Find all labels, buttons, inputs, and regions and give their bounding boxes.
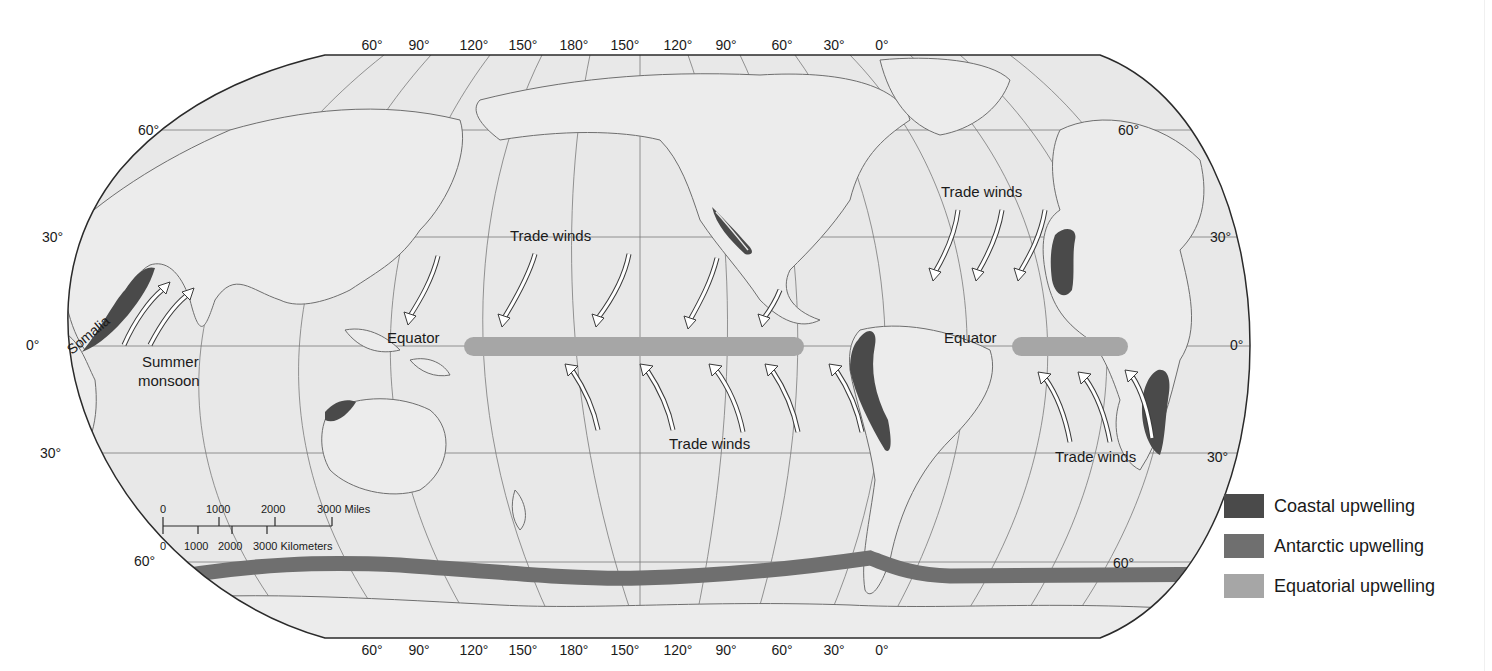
svg-text:3000 Kilometers: 3000 Kilometers	[253, 540, 333, 552]
legend-label: Equatorial upwelling	[1274, 576, 1435, 597]
svg-text:0°: 0°	[1230, 337, 1243, 353]
svg-text:120°: 120°	[460, 37, 489, 53]
svg-text:0°: 0°	[875, 37, 888, 53]
svg-text:60°: 60°	[771, 37, 792, 53]
svg-text:2000: 2000	[261, 503, 285, 515]
svg-text:180°: 180°	[560, 642, 589, 658]
svg-text:150°: 150°	[509, 642, 538, 658]
svg-text:0°: 0°	[26, 337, 39, 353]
svg-text:0°: 0°	[875, 642, 888, 658]
page-edge-divider	[1484, 0, 1485, 671]
svg-text:60°: 60°	[361, 642, 382, 658]
label-equator: Equator	[387, 329, 440, 346]
swatch-equatorial-upwelling	[1224, 574, 1264, 598]
svg-text:1000: 1000	[184, 540, 208, 552]
svg-text:0: 0	[160, 503, 166, 515]
legend: Coastal upwelling Antarctic upwelling Eq…	[1224, 486, 1435, 606]
svg-text:60°: 60°	[1113, 555, 1134, 571]
svg-text:3000 Miles: 3000 Miles	[317, 503, 371, 515]
swatch-antarctic-upwelling	[1224, 534, 1264, 558]
equatorial-upwelling-pacific	[464, 337, 804, 356]
legend-label: Coastal upwelling	[1274, 496, 1415, 517]
legend-label: Antarctic upwelling	[1274, 536, 1424, 557]
label-summer-monsoon: Summer	[142, 353, 199, 370]
label-summer-monsoon: monsoon	[138, 372, 200, 389]
svg-text:0: 0	[160, 540, 166, 552]
longitude-labels-bottom: 60° 90° 120° 150° 180° 150° 120° 90° 60°…	[361, 642, 888, 658]
svg-text:2000: 2000	[218, 540, 242, 552]
swatch-coastal-upwelling	[1224, 494, 1264, 518]
svg-text:30°: 30°	[40, 445, 61, 461]
svg-text:1000: 1000	[206, 503, 230, 515]
label-equator: Equator	[944, 329, 997, 346]
svg-text:150°: 150°	[611, 37, 640, 53]
svg-text:30°: 30°	[823, 37, 844, 53]
svg-text:60°: 60°	[771, 642, 792, 658]
svg-text:90°: 90°	[408, 37, 429, 53]
svg-text:120°: 120°	[664, 642, 693, 658]
label-trade-winds: Trade winds	[669, 435, 750, 452]
svg-text:60°: 60°	[138, 122, 159, 138]
coastal-upwelling-canary	[1051, 229, 1076, 295]
label-trade-winds: Trade winds	[1055, 448, 1136, 465]
svg-text:90°: 90°	[408, 642, 429, 658]
legend-item-equatorial-upwelling: Equatorial upwelling	[1224, 566, 1435, 606]
svg-text:150°: 150°	[509, 37, 538, 53]
label-trade-winds: Trade winds	[941, 183, 1022, 200]
svg-text:90°: 90°	[715, 37, 736, 53]
equatorial-upwelling-atlantic	[1012, 337, 1128, 356]
longitude-labels-top: 60° 90° 120° 150° 180° 150° 120° 90° 60°…	[361, 37, 888, 53]
svg-text:120°: 120°	[664, 37, 693, 53]
legend-item-coastal-upwelling: Coastal upwelling	[1224, 486, 1435, 526]
svg-text:60°: 60°	[1118, 122, 1139, 138]
svg-text:120°: 120°	[460, 642, 489, 658]
svg-text:30°: 30°	[823, 642, 844, 658]
svg-text:30°: 30°	[1207, 449, 1228, 465]
svg-text:90°: 90°	[715, 642, 736, 658]
svg-text:180°: 180°	[560, 37, 589, 53]
label-trade-winds: Trade winds	[510, 227, 591, 244]
svg-text:30°: 30°	[1210, 229, 1231, 245]
svg-text:150°: 150°	[611, 642, 640, 658]
legend-item-antarctic-upwelling: Antarctic upwelling	[1224, 526, 1435, 566]
svg-text:60°: 60°	[134, 553, 155, 569]
svg-text:60°: 60°	[361, 37, 382, 53]
svg-text:30°: 30°	[42, 229, 63, 245]
